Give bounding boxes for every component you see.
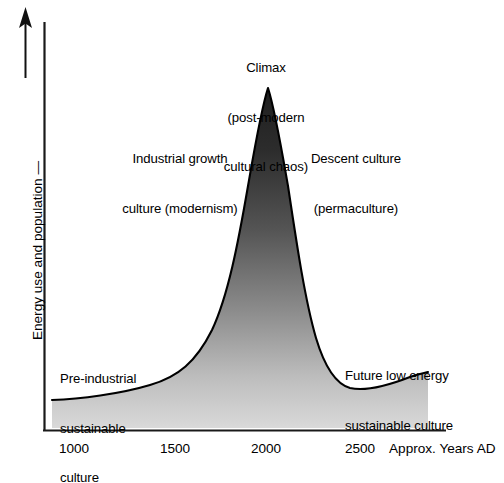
y-axis-title: Energy use and population — bbox=[30, 141, 45, 361]
annotation-descent-line2: (permaculture) bbox=[290, 201, 422, 218]
annotation-industrial-line2: culture (modernism) bbox=[104, 201, 256, 218]
annotation-industrial-growth: Industrial growth culture (modernism) bbox=[104, 118, 256, 250]
x-tick-label-1500: 1500 bbox=[152, 441, 198, 456]
up-arrow-icon bbox=[19, 7, 32, 78]
annotation-preindustrial-line3: culture bbox=[60, 470, 180, 483]
annotation-descent-line1: Descent culture bbox=[290, 151, 422, 168]
x-tick-label-2000: 2000 bbox=[243, 441, 289, 456]
annotation-preindustrial-line2: sustainable bbox=[60, 421, 180, 438]
annotation-climax-line1: Climax bbox=[186, 60, 346, 77]
x-tick-label-1000: 1000 bbox=[51, 441, 97, 456]
annotation-industrial-line1: Industrial growth bbox=[104, 151, 256, 168]
annotation-pre-industrial: Pre-industrial sustainable culture bbox=[60, 338, 180, 483]
energy-descent-chart: Climax (post-modern cultural chaos) Indu… bbox=[0, 0, 504, 483]
annotation-descent-culture: Descent culture (permaculture) bbox=[290, 118, 422, 250]
x-axis-title: Approx. Years AD bbox=[389, 441, 496, 456]
annotation-future-line1: Future low energy bbox=[345, 368, 500, 385]
annotation-future-line2: sustainable culture bbox=[345, 418, 500, 435]
annotation-preindustrial-line1: Pre-industrial bbox=[60, 371, 180, 388]
x-tick-label-2500: 2500 bbox=[337, 441, 383, 456]
